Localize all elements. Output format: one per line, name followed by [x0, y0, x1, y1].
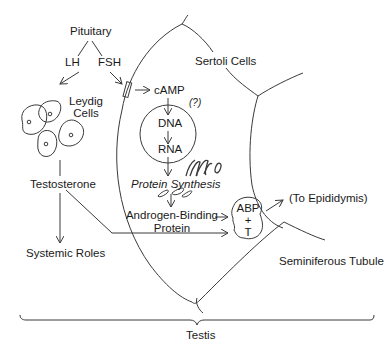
leydig-label-line1: Leydig — [68, 96, 104, 108]
testosterone-label: Testosterone — [30, 179, 96, 191]
pituitary-to-fsh-line — [92, 41, 102, 56]
diagram-lines — [0, 0, 385, 348]
pituitary-to-lh-line — [78, 41, 88, 56]
complex-to-epididymis-arrow — [266, 200, 283, 211]
to-epididymis-label: (To Epididymis) — [289, 193, 368, 205]
sertoli-right-branch — [258, 73, 303, 96]
complex-label-line1: ABP — [236, 203, 260, 215]
sertoli-top-right-line — [182, 24, 213, 52]
sertoli-upper-right-line — [226, 68, 258, 96]
abp-label-line1: Androgen-Binding — [124, 210, 220, 222]
pituitary-label: Pituitary — [70, 26, 112, 38]
tubule-lower-branch — [284, 222, 325, 240]
testis-brace — [20, 315, 374, 325]
fsh-label: FSH — [98, 57, 121, 69]
lh-label: LH — [65, 57, 80, 69]
seminiferous-tubule-label: Seminiferous Tubule — [279, 256, 384, 268]
testis-label: Testis — [186, 330, 215, 342]
lh-arrow — [60, 72, 79, 84]
complex-label-line2: + — [236, 215, 260, 227]
fsh-arrow — [110, 72, 122, 84]
rna-label: RNA — [158, 144, 182, 156]
testis-hormone-diagram: Pituitary LH FSH Leydig Cells Testostero… — [0, 0, 385, 348]
systemic-roles-label: Systemic Roles — [26, 248, 105, 260]
sertoli-top-knot — [182, 15, 188, 24]
question-label: (?) — [189, 98, 201, 108]
dna-label: DNA — [158, 118, 182, 130]
sertoli-left-boundary — [117, 24, 192, 302]
endoplasmic-reticulum-icon — [186, 160, 222, 176]
abp-label-line2: Protein — [124, 223, 220, 235]
sertoli-cells-label: Sertoli Cells — [195, 56, 256, 68]
leydig-label-line2: Cells — [68, 108, 104, 120]
camp-label: cAMP — [154, 85, 185, 97]
protein-synthesis-label: Protein Synthesis — [131, 179, 221, 191]
complex-label-line3: T — [236, 227, 260, 239]
